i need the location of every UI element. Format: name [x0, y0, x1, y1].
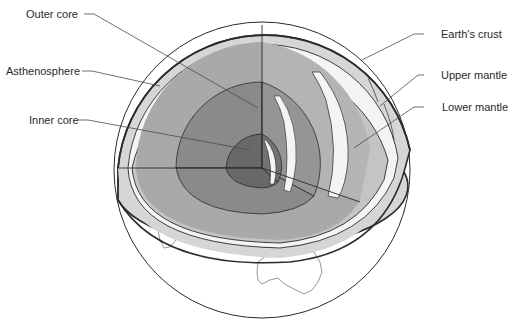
label-earths-crust: Earth's crust: [441, 28, 502, 40]
earth-cutaway-graphic: [0, 0, 512, 322]
earth-layers-diagram: Outer core Asthenosphere Inner core Eart…: [0, 0, 512, 322]
label-inner-core: Inner core: [29, 114, 79, 126]
leader-earths-crust: [362, 34, 424, 60]
label-lower-mantle: Lower mantle: [442, 101, 508, 113]
label-upper-mantle: Upper mantle: [441, 69, 507, 81]
label-outer-core: Outer core: [26, 8, 78, 20]
label-asthenosphere: Asthenosphere: [6, 65, 80, 77]
